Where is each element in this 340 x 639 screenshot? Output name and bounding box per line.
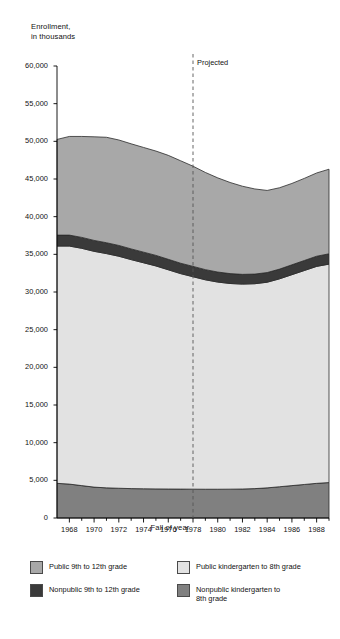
y-tick-label: 20,000 [4,362,48,371]
legend-item-nonpublic-9-12: Nonpublic 9th to 12th grade [30,584,140,597]
y-tick-label: 15,000 [4,400,48,409]
legend-swatch-nonpublic-k-8 [177,584,190,597]
legend-label-nonpublic-9-12: Nonpublic 9th to 12th grade [49,584,140,594]
y-tick-label: 40,000 [4,212,48,221]
legend-label-public-k-8: Public kindergarten to 8th grade [196,561,301,571]
y-tick-label: 35,000 [4,249,48,258]
y-tick-label: 50,000 [4,136,48,145]
y-tick-label: 30,000 [4,287,48,296]
y-tick-label: 55,000 [4,99,48,108]
legend-swatch-public-k-8 [177,561,190,574]
y-tick-label: 25,000 [4,325,48,334]
chart-plot-area [0,0,340,639]
legend-swatch-nonpublic-9-12 [30,584,43,597]
legend-item-public-k-8: Public kindergarten to 8th grade [177,561,301,574]
y-tick-label: 0 [4,513,48,522]
y-tick-label: 45,000 [4,174,48,183]
y-tick-label: 5,000 [4,475,48,484]
enrollment-stacked-area-chart: Enrollment, in thousands Projected 05,00… [0,0,340,639]
legend-swatch-public-9-12 [30,561,43,574]
projected-annotation-label: Projected [197,58,228,67]
y-tick-label: 10,000 [4,438,48,447]
legend-item-public-9-12: Public 9th to 12th grade [30,561,127,574]
legend-item-nonpublic-k-8: Nonpublic kindergarten to 8th grade [177,584,280,603]
y-tick-label: 60,000 [4,61,48,70]
x-axis-title: Fall of year [0,523,340,533]
legend-label-public-9-12: Public 9th to 12th grade [49,561,127,571]
legend-label-nonpublic-k-8: Nonpublic kindergarten to 8th grade [196,584,280,603]
chart-legend: Public 9th to 12th grade Nonpublic 9th t… [0,558,340,624]
